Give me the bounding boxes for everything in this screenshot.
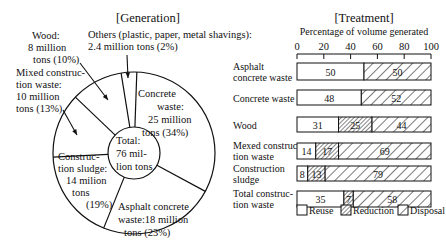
- bar-value-label: 35: [315, 194, 325, 205]
- slice-label-others: Others (plastic, paper, metal shavings):: [88, 29, 252, 41]
- slice-label-sludge: tons: [72, 187, 90, 198]
- slice-label-wood: tons (10%): [33, 54, 80, 66]
- slice-label-concrete: waste:: [157, 101, 184, 112]
- slice-label-asphalt: tons (23%): [124, 227, 171, 239]
- x-tick-label: 20: [319, 41, 330, 52]
- bar-value-label: 13: [311, 169, 321, 180]
- slice-label-sludge: tion sludge:: [58, 163, 107, 174]
- bar-value-label: 52: [391, 93, 401, 104]
- x-tick-label: 80: [399, 41, 410, 52]
- slice-label-concrete: Concrete: [138, 88, 176, 99]
- legend-label-reuse: Reuse: [309, 205, 334, 216]
- bar-value-label: 58: [387, 194, 397, 205]
- x-axis-label: Percentage of volume generated: [300, 26, 429, 37]
- bar-value-label: 44: [397, 120, 407, 131]
- x-tick-label: 40: [345, 41, 356, 52]
- slice-label-mixed: tons (13%): [16, 103, 63, 115]
- treatment-bar-chart: [Treatment]Percentage of volume generate…: [233, 11, 445, 216]
- category-label: tion waste: [233, 151, 274, 162]
- legend-swatch-reduction: [341, 205, 351, 215]
- legend-swatch-reuse: [297, 205, 307, 215]
- bar-value-label: 25: [350, 120, 360, 131]
- bar-value-label: 8: [300, 169, 305, 180]
- figure-canvas: [Generation]Total:76 mil-lion tonsConcre…: [0, 0, 446, 249]
- bar-value-label: 69: [380, 146, 390, 157]
- bar-value-label: 17: [322, 146, 332, 157]
- pie-title: [Generation]: [116, 11, 180, 25]
- slice-label-sludge: 14 milion: [66, 175, 107, 186]
- bar-title: [Treatment]: [334, 11, 393, 25]
- slice-label-wood: Wood:: [32, 30, 60, 41]
- pie-center-label: lion tons: [116, 161, 152, 172]
- bar-value-label: 50: [393, 67, 403, 78]
- bar-value-label: 7: [346, 194, 351, 205]
- pie-center-label: 76 mil-: [116, 148, 147, 159]
- bar-value-label: 31: [313, 120, 323, 131]
- bar-value-label: 48: [324, 93, 334, 104]
- x-tick-label: 0: [294, 41, 299, 52]
- legend-label-reduction: Reduction: [353, 205, 394, 216]
- category-label: concrete waste: [233, 72, 293, 83]
- bar-value-label: 14: [301, 146, 311, 157]
- slice-label-wood: 8 million: [28, 42, 67, 53]
- generation-pie-chart: [Generation]Total:76 mil-lion tonsConcre…: [16, 11, 252, 239]
- category-label: Total construc-: [233, 188, 293, 199]
- category-label: Construction: [233, 163, 285, 174]
- slice-label-sludge: Construc-: [58, 151, 100, 162]
- slice-label-others: 2.4 million tons (2%): [88, 41, 178, 53]
- slice-label-concrete: tons (34%): [142, 127, 189, 139]
- category-label: Wood: [233, 120, 257, 131]
- category-label: Concrete waste: [233, 93, 295, 104]
- legend-swatch-disposal: [398, 205, 408, 215]
- category-label: Asphalt: [233, 61, 264, 72]
- bar-value-label: 50: [326, 67, 336, 78]
- category-label: tion waste: [233, 199, 274, 210]
- slice-label-mixed: 10 million: [16, 91, 60, 102]
- slice-label-mixed: Mixed construc-: [16, 67, 86, 78]
- slice-label-sludge: (19%): [86, 199, 113, 211]
- category-label: Mexed construc-: [233, 140, 300, 151]
- slice-label-mixed: tion waste:: [16, 79, 62, 90]
- x-tick-label: 100: [423, 41, 439, 52]
- pie-center-label: Total:: [116, 135, 140, 146]
- bar-value-label: 79: [373, 169, 383, 180]
- slice-label-asphalt: Asphalt concrete: [118, 201, 189, 212]
- legend-label-disposal: Disposal: [410, 205, 445, 216]
- category-label: sludge: [233, 174, 260, 185]
- figure-root: [Generation]Total:76 mil-lion tonsConcre…: [0, 0, 446, 249]
- slice-label-asphalt: waste:18 million: [118, 214, 189, 225]
- x-tick-label: 60: [372, 41, 383, 52]
- slice-label-concrete: 25 million: [148, 114, 192, 125]
